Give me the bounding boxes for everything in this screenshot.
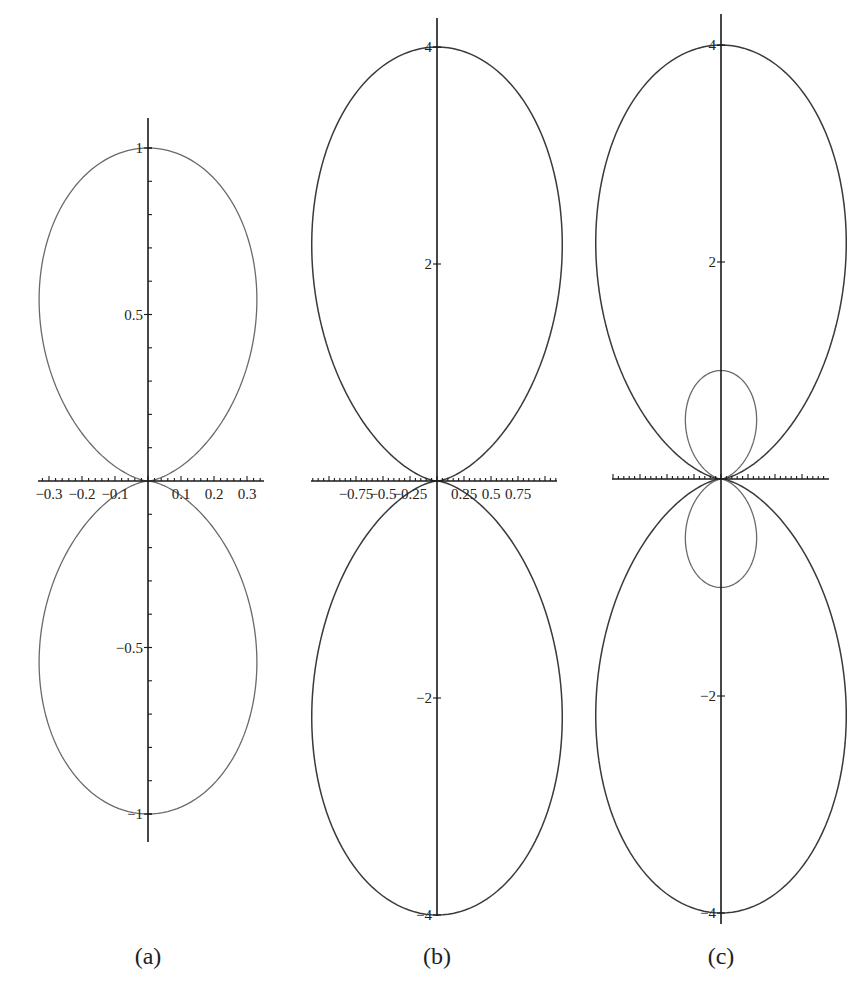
caption-c: (c) [708,943,735,970]
y-tick-label: 4 [709,37,717,53]
y-tick-label: 0.5 [124,307,143,323]
x-tick-label: 0.1 [172,486,191,502]
x-tick-label: −0.75 [339,486,374,502]
x-tick-label: −0.2 [68,486,95,502]
polar-curves-figure: −0.3−0.2−0.10.10.20.310.5−0.5−1−0.75−0.5… [0,0,852,994]
y-tick-label: 4 [425,39,433,55]
y-tick-label: −2 [700,688,716,704]
x-tick-label: −0.25 [393,486,428,502]
y-tick-label: −1 [127,806,143,822]
y-tick-label: −4 [416,907,432,923]
y-tick-label: 2 [709,254,717,270]
caption-a: (a) [135,943,162,970]
x-tick-label: 0.5 [482,486,501,502]
y-tick-label: −2 [416,690,432,706]
x-tick-label: −0.3 [35,486,62,502]
panel-a: −0.3−0.2−0.10.10.20.310.5−0.5−1 [35,118,264,842]
y-tick-label: −4 [700,905,716,921]
caption-b: (b) [423,943,451,970]
y-tick-label: 1 [136,140,144,156]
y-tick-label: 2 [425,256,433,272]
panel-b: −0.75−0.5−0.250.250.50.7542−2−4 [311,18,562,923]
x-tick-label: 0.2 [205,486,224,502]
x-tick-label: 0.25 [451,486,477,502]
x-tick-label: −0.1 [101,486,128,502]
y-tick-label: −0.5 [116,640,143,656]
x-tick-label: 0.75 [505,486,531,502]
x-tick-label: 0.3 [238,486,257,502]
panel-c: 42−2−4 [596,14,847,924]
